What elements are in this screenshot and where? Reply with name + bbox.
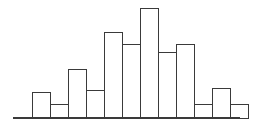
histogram-bar <box>177 45 195 119</box>
histogram-bar <box>213 89 231 119</box>
bar-series <box>33 9 249 119</box>
histogram-bar <box>105 33 123 119</box>
histogram-bar <box>231 105 249 119</box>
histogram-bar <box>51 105 69 119</box>
histogram-bar <box>33 93 51 119</box>
histogram-figure <box>0 0 254 127</box>
histogram-bar <box>141 9 159 119</box>
histogram-bar <box>195 105 213 119</box>
histogram-bar <box>69 70 87 119</box>
histogram-plot <box>0 0 254 127</box>
histogram-bar <box>123 45 141 119</box>
histogram-bar <box>159 53 177 119</box>
histogram-bar <box>87 91 105 119</box>
